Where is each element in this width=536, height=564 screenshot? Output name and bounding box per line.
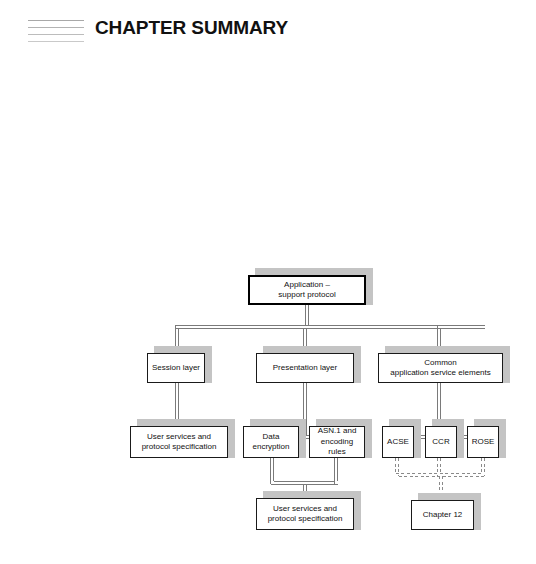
- chapter-summary-diagram: Application – support protocolSession la…: [0, 0, 536, 564]
- node-user2: User services and protocol specification: [256, 498, 354, 530]
- node-common: Common application service elements: [378, 353, 503, 383]
- node-label: ASN.1 and encoding rules: [310, 426, 364, 458]
- node-label: ROSE: [469, 437, 498, 448]
- node-label: CCR: [429, 437, 452, 448]
- node-label: ACSE: [384, 437, 412, 448]
- node-label: User services and protocol specification: [265, 504, 346, 525]
- node-dataenc: Data encryption: [243, 426, 299, 458]
- node-chapter12: Chapter 12: [411, 500, 474, 530]
- node-user1: User services and protocol specification: [130, 426, 228, 458]
- node-label: User services and protocol specification: [139, 432, 220, 453]
- node-label: Application – support protocol: [275, 280, 338, 301]
- node-root: Application – support protocol: [248, 275, 366, 305]
- node-rose: ROSE: [467, 426, 499, 458]
- node-session: Session layer: [147, 353, 205, 383]
- node-presentation: Presentation layer: [256, 353, 354, 383]
- node-label: Session layer: [149, 363, 203, 374]
- node-label: Presentation layer: [270, 363, 340, 374]
- node-label: Common application service elements: [387, 358, 494, 379]
- node-ccr: CCR: [425, 426, 457, 458]
- node-label: Chapter 12: [420, 510, 466, 521]
- node-asn1: ASN.1 and encoding rules: [309, 426, 365, 458]
- node-acse: ACSE: [382, 426, 414, 458]
- node-label: Data encryption: [250, 432, 293, 453]
